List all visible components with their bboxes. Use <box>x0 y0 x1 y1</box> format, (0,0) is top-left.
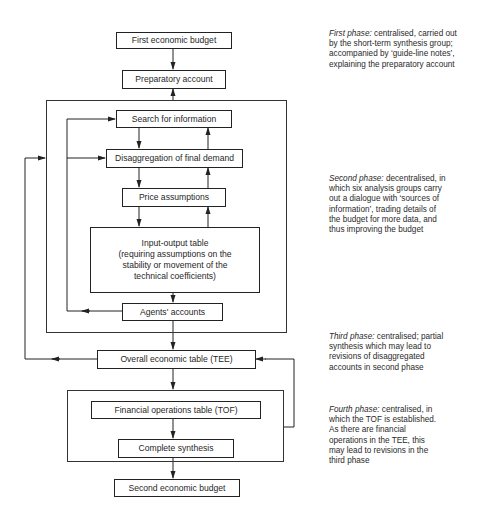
first-economic-budget-box: First economic budget <box>116 32 232 49</box>
input-output-note-line: technical coefficients) <box>134 271 216 282</box>
preparatory-account-label: Preparatory account <box>135 74 212 85</box>
second-phase-note: Second phase: decentralised, in which si… <box>329 174 449 235</box>
second-phase-frame <box>46 100 287 333</box>
third-phase-note: Third phase: centralised; partial synthe… <box>329 332 449 373</box>
preparatory-account-box: Preparatory account <box>122 70 226 89</box>
first-phase-label: First phase: <box>329 29 372 38</box>
price-assumptions-label: Price assumptions <box>139 192 209 203</box>
overall-economic-table-label: Overall economic table (TEE) <box>120 354 232 365</box>
fourth-phase-text: centralised, in which the TOF is establi… <box>329 405 436 465</box>
agents-accounts-label: Agents' accounts <box>140 307 205 318</box>
financial-operations-table-box: Financial operations table (TOF) <box>91 401 261 419</box>
disaggregation-box: Disaggregation of final demand <box>106 149 243 168</box>
fourth-phase-note: Fourth phase: centralised, in which the … <box>329 405 441 466</box>
financial-operations-table-label: Financial operations table (TOF) <box>114 405 237 416</box>
second-economic-budget-label: Second economic budget <box>129 483 226 494</box>
input-output-note-line: (requiring assumptions on the <box>118 249 231 260</box>
second-economic-budget-box: Second economic budget <box>114 479 240 497</box>
search-information-label: Search for information <box>132 114 217 125</box>
first-economic-budget-label: First economic budget <box>132 35 217 46</box>
second-phase-label: Second phase: <box>329 174 384 183</box>
price-assumptions-box: Price assumptions <box>122 188 226 207</box>
second-phase-text: decentralised, in which six analysis gro… <box>329 174 446 234</box>
search-information-box: Search for information <box>116 110 232 128</box>
input-output-table-box: Input-output table (requiring assumption… <box>90 227 260 293</box>
complete-synthesis-box: Complete synthesis <box>118 439 234 458</box>
first-phase-note: First phase: centralised, carried out by… <box>329 29 457 70</box>
overall-economic-table-box: Overall economic table (TEE) <box>97 350 256 369</box>
complete-synthesis-label: Complete synthesis <box>139 443 214 454</box>
disaggregation-label: Disaggregation of final demand <box>115 153 234 164</box>
fourth-phase-label: Fourth phase: <box>329 405 380 414</box>
agents-accounts-box: Agents' accounts <box>122 303 223 321</box>
third-phase-label: Third phase: <box>329 332 375 341</box>
input-output-title: Input-output table <box>142 238 209 249</box>
input-output-note-line: stability or movement of the <box>122 260 227 271</box>
